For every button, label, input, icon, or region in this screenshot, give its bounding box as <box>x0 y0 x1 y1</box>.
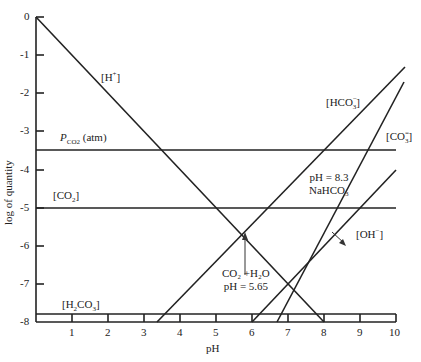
series-co3 <box>277 82 404 322</box>
x-tick: 1 <box>69 327 75 338</box>
label-hco3: [HCO−3] <box>326 96 360 111</box>
x-tick: 10 <box>389 327 400 338</box>
y-tick: -8 <box>20 316 29 327</box>
y-tick: -1 <box>20 49 29 60</box>
x-tick: 2 <box>105 327 111 338</box>
label-h2co3: [H2CO3] <box>62 299 100 313</box>
y-tick: -6 <box>20 240 29 251</box>
annotation-co2-h2o: CO₂ +H₂O pH = 5.65 <box>222 268 270 292</box>
y-tick: -2 <box>20 87 29 98</box>
x-tick: 4 <box>177 327 183 338</box>
x-tick: 8 <box>321 327 327 338</box>
x-axis-label: pH <box>206 343 219 354</box>
x-tick: 5 <box>213 327 219 338</box>
label-co3: [CO=3] <box>386 130 412 145</box>
series-h <box>36 17 324 322</box>
x-tick: 6 <box>249 327 255 338</box>
x-tick: 9 <box>357 327 363 338</box>
label-h: [H+] <box>101 71 120 83</box>
label-co2: [CO2] <box>53 190 79 204</box>
y-tick: -5 <box>20 202 29 213</box>
annotation-nahco3: pH = 8.3 NaHCO₃ <box>309 172 349 196</box>
y-tick: 0 <box>24 11 30 22</box>
y-tick: -3 <box>20 125 29 136</box>
y-tick: -7 <box>20 278 29 289</box>
x-tick: 3 <box>141 327 147 338</box>
series-hco3 <box>157 67 405 322</box>
x-tick: 7 <box>285 327 291 338</box>
y-tick: -4 <box>20 164 29 175</box>
label-oh: [OH−] <box>356 228 383 240</box>
y-axis-label: log of quantity <box>2 160 14 225</box>
label-pco2: PCO2 (atm) <box>60 132 107 146</box>
